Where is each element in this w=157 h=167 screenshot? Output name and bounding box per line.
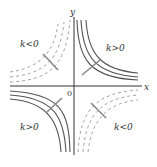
hyperbola-diagram: y x 0 k>0 k<0 k>0 k<0 bbox=[0, 0, 157, 167]
q3-label: k>0 bbox=[20, 122, 39, 132]
q3-solid-curves bbox=[10, 91, 70, 152]
y-axis-label: y bbox=[69, 7, 76, 17]
x-axis-label: x bbox=[144, 82, 149, 92]
q2-label: k<0 bbox=[20, 39, 39, 49]
origin-label: 0 bbox=[67, 89, 72, 98]
q2-dashed-curves bbox=[10, 20, 70, 82]
q1-arrow bbox=[82, 60, 100, 75]
q1-label: k>0 bbox=[106, 43, 125, 53]
q4-dashed-curves bbox=[78, 90, 138, 152]
q4-label: k<0 bbox=[114, 122, 133, 132]
q2-arrow bbox=[43, 54, 58, 70]
